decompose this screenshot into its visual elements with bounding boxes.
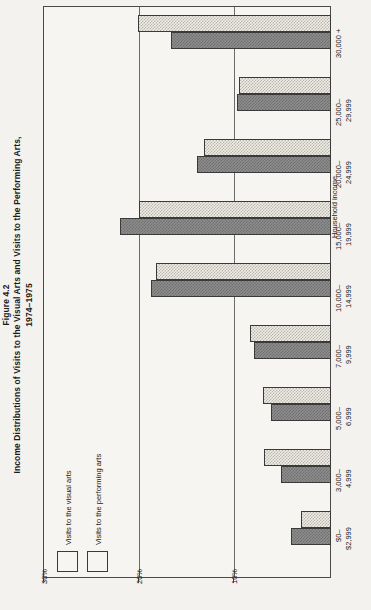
bar-performing-30000plus[interactable] [138,15,331,32]
figure-title-line2: 1974–1975 [24,5,35,605]
category-label-20000-24999-line2: 24,999 [344,140,367,149]
figure-page: Figure 4.2 Income Distributions of Visit… [0,0,371,610]
category-label-3000-4999-line2: 4,999 [344,450,363,459]
bar-performing-25000-29999[interactable] [239,77,331,94]
figure-title: Income Distributions of Visits to the Vi… [12,5,23,605]
bar-performing-5000-6999[interactable] [263,387,331,404]
tick-label-20-percent: 20% [135,584,150,593]
category-label-25000-29999-line2: 29,999 [344,78,367,87]
tick-label-10-percent: 10% [230,584,245,593]
category-label-5000-6999-line2: 6,999 [344,388,363,397]
legend-swatch-visual-arts [57,551,78,572]
bar-visual-15000-19999[interactable] [120,218,331,235]
bar-performing-10000-14999[interactable] [156,263,331,280]
figure-title-block: Figure 4.2 Income Distributions of Visit… [0,0,36,610]
bar-visual-10000-14999[interactable] [151,280,331,297]
gridline-20-percent [139,7,140,577]
bar-performing-0-2999[interactable] [301,511,331,528]
category-label-7000-9999-line2: 9,999 [344,326,363,335]
bar-visual-20000-24999[interactable] [197,156,331,173]
figure-number: Figure 4.2 [1,5,12,605]
category-label-15000-19999-line2: 19,999 [344,202,367,211]
bar-visual-5000-6999[interactable] [271,404,331,421]
bar-performing-15000-19999[interactable] [139,201,331,218]
plot-area: Visits to the visual arts Visits to the … [43,6,331,578]
category-label-30000plus: 30,000 + [334,16,363,25]
category-label-10000-14999-line2: 14,999 [344,264,367,273]
bar-visual-0-2999[interactable] [291,528,331,545]
bar-performing-20000-24999[interactable] [204,139,331,156]
category-label-0-2999-line2: $2,999 [344,512,367,521]
bar-visual-3000-4999[interactable] [281,466,331,483]
bar-performing-7000-9999[interactable] [250,325,331,342]
legend-label-performing-arts: Visits to the performing arts [94,545,185,554]
bar-visual-30000plus[interactable] [171,32,331,49]
bar-visual-25000-29999[interactable] [237,94,331,111]
bar-performing-3000-4999[interactable] [264,449,331,466]
bar-visual-7000-9999[interactable] [254,342,331,359]
category-axis-title: Household income [330,238,371,247]
legend-swatch-performing-arts [87,551,108,572]
tick-label-30-percent: 30% [40,584,55,593]
